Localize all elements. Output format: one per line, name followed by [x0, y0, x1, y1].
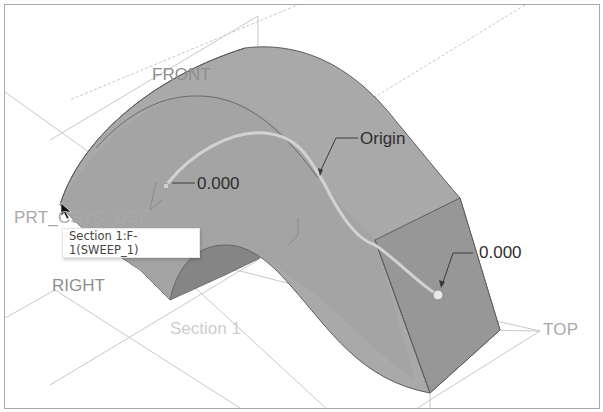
origin-label[interactable]: Origin — [360, 130, 405, 147]
datum-label-front[interactable]: FRONT — [152, 66, 211, 83]
hover-tooltip: Section 1:F-1(SWEEP_1) — [62, 228, 200, 258]
tooltip-text: Section 1:F-1(SWEEP_1) — [69, 229, 199, 257]
graphics-viewport[interactable]: FRONT PRT_CSYS_DEF RIGHT TOP Section 1 O… — [4, 4, 600, 409]
3d-model-scene[interactable] — [4, 4, 600, 409]
datum-label-top[interactable]: TOP — [543, 321, 578, 338]
datum-label-right[interactable]: RIGHT — [52, 277, 105, 294]
section-label[interactable]: Section 1 — [170, 320, 241, 337]
trajectory-start-point[interactable] — [163, 183, 169, 189]
start-dimension-value[interactable]: 0.000 — [197, 175, 240, 192]
trajectory-end-point[interactable] — [433, 290, 443, 300]
end-dimension-value[interactable]: 0.000 — [479, 244, 522, 261]
datum-label-csys[interactable]: PRT_CSYS_DEF — [14, 209, 149, 226]
